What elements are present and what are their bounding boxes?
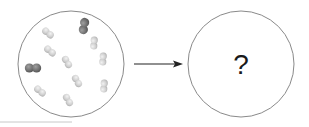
reaction-diagram: ? xyxy=(0,0,309,127)
reaction-arrow-icon xyxy=(134,61,183,68)
unknown-product-label: ? xyxy=(233,49,249,80)
